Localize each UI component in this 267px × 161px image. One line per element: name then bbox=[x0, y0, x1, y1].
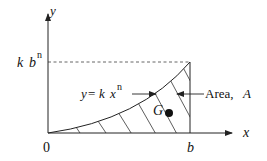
origin-label: 0 bbox=[43, 140, 50, 155]
y-tick-k: k bbox=[17, 55, 24, 70]
eq-x: x bbox=[109, 86, 116, 101]
curve-y-equals-kx-n bbox=[48, 62, 190, 133]
y-tick-label-kbn: k b n bbox=[17, 49, 42, 70]
diagram-canvas: y x 0 k b n b y = k x n Area, A G bbox=[0, 0, 267, 161]
hatched-area bbox=[70, 58, 210, 145]
centroid-dot bbox=[165, 109, 173, 117]
x-axis-label: x bbox=[242, 125, 250, 140]
x-tick-label-b: b bbox=[187, 140, 194, 155]
eq-equals: = bbox=[88, 86, 95, 101]
area-text: Area, bbox=[205, 86, 234, 101]
eq-n: n bbox=[117, 81, 122, 92]
y-tick-n: n bbox=[37, 49, 42, 60]
eq-k: k bbox=[99, 86, 105, 101]
area-label: Area, A bbox=[205, 86, 251, 101]
eq-y: y bbox=[79, 86, 87, 101]
curve-equation-label: y = k x n bbox=[79, 81, 122, 101]
area-diagram: y x 0 k b n b y = k x n Area, A G bbox=[0, 0, 267, 161]
y-axis-label: y bbox=[48, 3, 56, 18]
centroid-label: G bbox=[153, 103, 163, 118]
y-tick-b: b bbox=[29, 55, 36, 70]
area-symbol: A bbox=[242, 86, 251, 101]
